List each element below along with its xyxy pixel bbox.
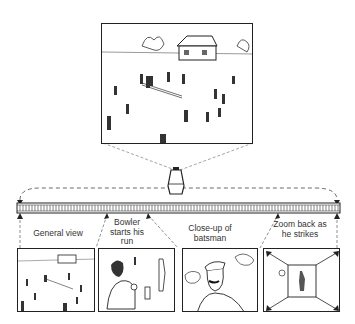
shot-frame-close-up — [182, 248, 258, 312]
shot-frame-general-view — [17, 248, 95, 312]
top-scene-frame — [101, 23, 253, 144]
cricket-field-illustration — [102, 24, 253, 144]
shot-label-zoom-back: Zoom back as he strikes — [270, 220, 330, 239]
shot-label-general-view: General view — [22, 229, 94, 239]
shot-frame-zoom-back — [263, 248, 340, 312]
shot-label-bowler: Bowler starts his run — [108, 218, 146, 247]
shot-label-close-up: Close-up of batsman — [182, 224, 238, 243]
movie-camera-icon — [168, 167, 184, 194]
shot-frame-bowler — [98, 248, 175, 312]
